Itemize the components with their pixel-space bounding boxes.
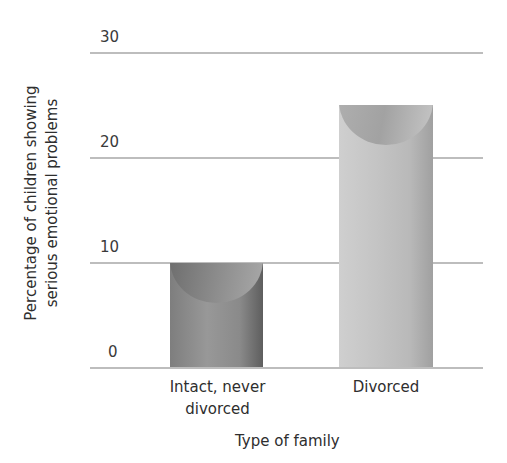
y-tick-10: 10 [100,238,119,256]
x-axis-title: Type of family [235,432,340,450]
y-tick-30: 30 [100,28,119,46]
bar-intact [170,263,263,367]
x-label-intact: Intact, never divorced [150,376,285,420]
bar-divorced [339,105,433,367]
bar-cap [170,263,263,303]
x-label-line: divorced [150,398,285,420]
x-label-line: Intact, never [150,376,285,398]
gridline-0 [90,367,483,369]
y-axis-title-line: serious emotional problems [42,78,63,328]
x-label-divorced: Divorced [330,376,442,398]
y-axis-title: Percentage of children showing serious e… [21,78,63,328]
gridline-30 [90,52,483,54]
bar-cap [339,105,433,145]
y-tick-0: 0 [108,343,118,361]
y-axis-title-line: Percentage of children showing [21,78,42,328]
x-label-line: Divorced [330,376,442,398]
y-tick-20: 20 [100,133,119,151]
